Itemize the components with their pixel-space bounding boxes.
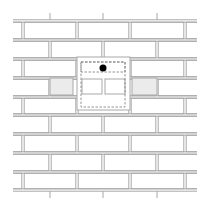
brick: [158, 154, 199, 171]
brick: [11, 79, 49, 96]
brick: [11, 154, 49, 171]
inner-brick: [82, 79, 102, 94]
brick: [24, 135, 76, 152]
brick: [158, 116, 199, 133]
brick: [11, 116, 49, 133]
shaded-brick: [50, 78, 73, 95]
brick: [131, 60, 184, 77]
brick: [24, 98, 76, 114]
brick: [104, 154, 156, 171]
brick: [24, 22, 76, 39]
brick: [131, 173, 184, 189]
brick: [24, 173, 76, 189]
brick: [104, 116, 156, 133]
brick: [78, 22, 129, 39]
brick: [51, 116, 102, 133]
edge-mask-left: [0, 0, 13, 205]
brick: [78, 173, 129, 189]
brick: [51, 41, 102, 58]
brick: [158, 41, 199, 58]
brick-wall-diagram: [0, 0, 205, 205]
brick: [104, 41, 156, 58]
point-marker-icon: [100, 65, 107, 72]
edge-mask-right: [197, 0, 205, 205]
brick: [24, 60, 76, 77]
brick: [158, 79, 199, 96]
inner-brick: [105, 79, 125, 94]
brick: [11, 41, 49, 58]
brick: [51, 154, 102, 171]
brick: [131, 22, 184, 39]
brick: [131, 135, 184, 152]
shaded-brick: [132, 78, 157, 95]
brick: [78, 135, 129, 152]
brick: [131, 98, 184, 114]
